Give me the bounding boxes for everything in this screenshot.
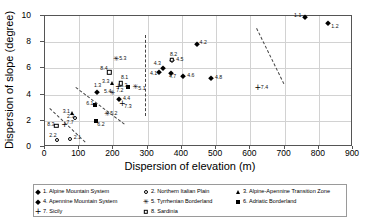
x-axis-tick-mark (352, 146, 353, 149)
data-point-label: 4.2 (200, 40, 207, 45)
x-axis-tick-mark (284, 146, 285, 149)
x-axis-tick-label: 400 (166, 148, 196, 158)
x-axis-tick-label: 500 (200, 148, 230, 158)
diamond-marker-icon (35, 189, 40, 194)
data-point-label: 1.1 (294, 13, 301, 18)
data-point-label: 8.2 (170, 52, 177, 57)
x-axis-tick-mark (44, 146, 45, 149)
diamond-marker-icon (303, 15, 308, 20)
y-axis-tick-mark (40, 94, 44, 95)
y-axis-tick-label: 2 (14, 115, 31, 125)
square-o-marker-icon (170, 58, 174, 62)
square-o-marker-icon (119, 81, 123, 85)
x-axis-tick-label: 700 (269, 148, 299, 158)
diamond-marker-icon (326, 21, 331, 26)
y-axis-tick-mark (40, 67, 44, 68)
legend-label: 3. Alpine-Apennine Transition Zone (243, 187, 330, 196)
data-point-label: 4.5 (176, 57, 183, 62)
diamond-marker-icon (156, 70, 161, 75)
gridline-vertical (319, 16, 320, 145)
gridline-horizontal (45, 121, 351, 122)
circle-o-marker-icon (144, 190, 148, 194)
data-point-label: 5.4 (104, 89, 111, 94)
gridline-vertical (182, 16, 183, 145)
x-axis-tick-label: 800 (303, 148, 333, 158)
x-axis-tick-mark (112, 146, 113, 149)
y-axis-tick-label: 6 (14, 62, 31, 72)
x-axis-tick-label: 600 (234, 148, 264, 158)
diamond-marker-icon (181, 73, 186, 78)
data-point-label: 4.7 (169, 74, 176, 79)
data-point-label: 4.1 (150, 71, 157, 76)
divider-line-vertical-divider (145, 35, 146, 116)
data-point-label: 4.8 (215, 75, 222, 80)
legend-label: 8. Sardinia (151, 207, 178, 216)
triangle-marker-icon (70, 111, 74, 115)
legend-label: 7. Sicily (43, 207, 62, 216)
data-point-label: 4.6 (187, 73, 194, 78)
gridline-vertical (285, 16, 286, 145)
legend-label: 6. Adriatic Borderland (243, 197, 296, 206)
x-axis-tick-mark (215, 146, 216, 149)
x-axis-tick-label: 300 (132, 148, 162, 158)
gridline-vertical (79, 16, 80, 145)
y-axis-tick-label: 10 (14, 10, 31, 20)
square-o-marker-icon (144, 209, 148, 213)
circle-o-marker-icon (68, 137, 72, 141)
data-point-label: 2.2 (49, 133, 56, 138)
circle-o-marker-icon (55, 138, 59, 142)
diamond-marker-icon (160, 66, 165, 71)
data-point-label: 3.1 (63, 109, 70, 114)
x-axis-tick-label: 200 (97, 148, 127, 158)
gridline-vertical (250, 16, 251, 145)
x-axis-tick-label: 100 (63, 148, 93, 158)
data-point-label: 4.3 (154, 61, 161, 66)
data-point-label: 6.2 (97, 122, 104, 127)
plus-marker-icon: + (35, 210, 42, 214)
y-axis-tick-label: 8 (14, 36, 31, 46)
legend-label: 1. Alpine Mountain System (43, 187, 109, 196)
data-point-label: 1.3 (94, 83, 101, 88)
y-axis-tick-mark (40, 146, 44, 147)
x-axis-tick-mark (318, 146, 319, 149)
data-point-label: 7.4 (261, 85, 268, 90)
gridline-horizontal (45, 95, 351, 96)
legend-label: 4. Apennine Mountain System (43, 197, 117, 206)
y-axis-tick-label: 0 (14, 141, 31, 151)
y-axis-tick-mark (40, 41, 44, 42)
chart-figure: 1.11.21.32.12.22.33.13.34.14.24.34.44.54… (0, 0, 380, 224)
y-axis-tick-mark (40, 120, 44, 121)
gridline-horizontal (45, 68, 351, 69)
square-marker-icon (236, 200, 240, 204)
data-point-label: 8.1 (121, 75, 128, 80)
x-axis-tick-mark (249, 146, 250, 149)
data-point-label: 7.2 (116, 88, 123, 93)
plot-area: 1.11.21.32.12.22.33.13.34.14.24.34.44.54… (44, 15, 352, 146)
chart-legend: 1. Alpine Mountain System2. Northern Ita… (33, 184, 347, 217)
triangle-marker-icon (236, 190, 240, 194)
y-axis-tick-mark (40, 15, 44, 16)
x-axis-tick-label: 900 (337, 148, 367, 158)
data-point-label: 8.3 (47, 122, 54, 127)
divider-line-right-divider (256, 28, 284, 84)
diamond-marker-icon (208, 76, 213, 81)
y-axis-label: Dispersion of slope (degree) (3, 5, 15, 155)
x-axis-tick-mark (78, 146, 79, 149)
data-point-label: 3.3 (102, 79, 109, 84)
x-axis-tick-mark (181, 146, 182, 149)
star-marker-icon: ✳ (143, 200, 149, 204)
x-axis-tick-mark (147, 146, 148, 149)
data-point-label: 8.4 (100, 66, 107, 71)
data-point-label: 5.3 (119, 56, 126, 61)
x-axis-label: Dispersion of elevation (m) (0, 160, 380, 172)
gridline-vertical (216, 16, 217, 145)
legend-label: 5. Tyrrhenian Borderland (151, 197, 212, 206)
diamond-marker-icon (35, 199, 40, 204)
gridline-vertical (148, 16, 149, 145)
y-axis-tick-label: 4 (14, 89, 31, 99)
triangle-marker-icon (110, 81, 114, 85)
data-point-label: 6.1 (86, 101, 93, 106)
data-point-label: 1.2 (331, 24, 338, 29)
x-axis-tick-label: 0 (29, 148, 59, 158)
data-point-label: 7.3 (124, 104, 131, 109)
